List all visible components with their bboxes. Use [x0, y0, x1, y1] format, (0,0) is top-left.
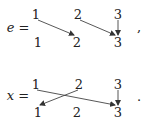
e-punct: , — [137, 20, 141, 33]
e-top-3: 3 — [114, 8, 122, 21]
x-bottom-3: 3 — [114, 106, 122, 119]
arrow-x-1-to-3 — [37, 90, 115, 105]
e-bottom-3: 3 — [114, 36, 122, 49]
arrow-e-2-to-3 — [80, 20, 115, 35]
x-label: x = — [7, 89, 29, 102]
x-bottom-2: 2 — [73, 106, 81, 119]
x-top-2: 2 — [75, 78, 83, 91]
e-top-1: 1 — [32, 8, 40, 21]
x-top-1: 1 — [32, 78, 40, 91]
e-bottom-2: 2 — [73, 36, 81, 49]
arrow-x-2-to-1 — [40, 90, 78, 105]
e-top-2: 2 — [74, 8, 82, 21]
x-punct: . — [137, 90, 141, 103]
arrow-e-1-to-2 — [38, 20, 74, 35]
e-bottom-1: 1 — [34, 36, 42, 49]
x-top-3: 3 — [114, 78, 122, 91]
e-label: e = — [7, 21, 30, 34]
x-bottom-1: 1 — [34, 106, 42, 119]
